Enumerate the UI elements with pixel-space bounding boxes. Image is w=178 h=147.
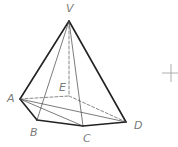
edge-vb [37, 21, 69, 120]
label-b: B [30, 126, 38, 139]
label-d: D [134, 119, 142, 132]
edge-cd [83, 122, 126, 126]
label-e: E [59, 81, 66, 94]
label-v: V [66, 2, 75, 15]
edge-vd [69, 21, 126, 122]
pyramid-diagram: V A B C D E [0, 0, 178, 147]
label-a: A [6, 92, 15, 105]
label-c: C [83, 132, 91, 145]
crosshair-icon [162, 64, 178, 82]
edge-ed [69, 96, 126, 122]
